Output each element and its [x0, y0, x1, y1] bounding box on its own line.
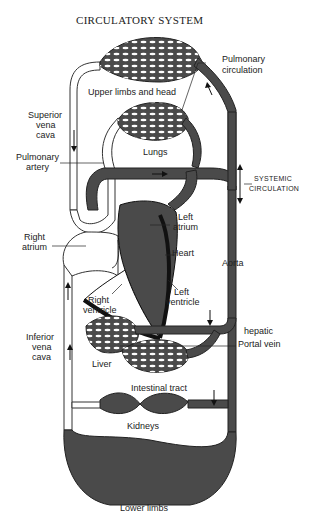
label-pulmonary-artery-1: Pulmonary: [16, 152, 60, 162]
intestinal-tract-capillary-bed: [122, 340, 188, 373]
label-intestinal-tract: Intestinal tract: [131, 383, 188, 393]
label-left-ventricle-1: Left: [174, 287, 190, 297]
aorta-vessel: [228, 186, 236, 432]
label-upper-limbs: Upper limbs and head: [88, 87, 176, 97]
label-superior-vena-cava-1: Superior: [28, 110, 62, 120]
pulmonary-vein-vessel: [182, 118, 201, 168]
systemic-circulation-indicator: [237, 164, 252, 204]
upper-limbs-capillary-bed: [100, 37, 202, 82]
circulatory-system-diagram: CIRCULATORY SYSTEM: [0, 0, 314, 526]
diagram-title: CIRCULATORY SYSTEM: [76, 14, 203, 26]
label-lungs: Lungs: [143, 147, 168, 157]
label-hepatic: hepatic: [244, 326, 274, 336]
label-left-atrium-1: Left: [178, 212, 194, 222]
lower-limbs-capillary-bed: [64, 430, 236, 505]
label-aorta: Aorta: [222, 258, 244, 268]
label-heart: Heart: [172, 248, 195, 258]
label-inferior-vena-cava-3: cava: [32, 352, 51, 362]
label-left-ventricle-2: ventricle: [166, 297, 200, 307]
kidneys-capillary-bed: [100, 393, 188, 414]
label-right-ventricle-1: Right: [88, 295, 110, 305]
label-superior-vena-cava-3: cava: [36, 130, 55, 140]
label-systemic-1: SYSTEMIC: [254, 175, 292, 182]
label-inferior-vena-cava-2: vena: [32, 342, 52, 352]
label-systemic-2: CIRCULATION: [249, 185, 299, 192]
label-lower-limbs: Lower limbs: [120, 503, 169, 513]
label-right-ventricle-2: ventricle: [83, 305, 117, 315]
label-left-atrium-2: atrium: [173, 222, 198, 232]
label-kidneys: Kidneys: [127, 421, 160, 431]
label-inferior-vena-cava-1: Inferior: [26, 332, 54, 342]
label-right-atrium-1: Right: [24, 232, 46, 242]
renal-vein: [72, 402, 100, 408]
label-pulmonary-circulation-1: Pulmonary: [222, 54, 266, 64]
label-right-atrium-2: atrium: [22, 242, 47, 252]
label-pulmonary-circulation-2: circulation: [222, 65, 263, 75]
label-portal-vein: Portal vein: [238, 339, 281, 349]
label-pulmonary-artery-2: artery: [26, 162, 50, 172]
renal-artery: [188, 400, 228, 408]
label-liver: Liver: [92, 359, 112, 369]
lungs-capillary-bed: [118, 102, 188, 140]
right-atrium-body: [63, 232, 118, 276]
label-superior-vena-cava-2: vena: [36, 120, 56, 130]
